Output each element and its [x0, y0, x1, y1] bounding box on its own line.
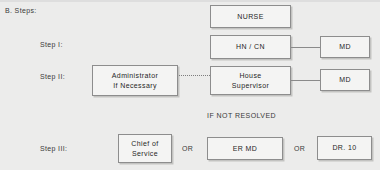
node-house-supervisor-line2: Supervisor — [232, 81, 269, 91]
step-label-3: Step III: — [40, 145, 67, 152]
annotation-or-first: OR — [182, 145, 193, 152]
node-chief-of-service-line2: Service — [131, 149, 158, 159]
node-administrator-line1: Administrator — [112, 71, 158, 81]
node-hn-cn[interactable]: HN / CN — [210, 35, 291, 59]
step-label-1: Step I: — [40, 41, 63, 48]
node-administrator[interactable]: Administrator If Necessary — [92, 65, 178, 96]
annotation-or-second: OR — [294, 145, 305, 152]
node-administrator-line2: If Necessary — [112, 81, 158, 91]
section-heading: B. Steps: — [5, 7, 37, 14]
node-chief-of-service[interactable]: Chief of Service — [118, 134, 172, 163]
annotation-if-not-resolved: IF NOT RESOLVED — [207, 112, 276, 119]
node-house-supervisor[interactable]: House Supervisor — [210, 66, 291, 95]
node-nurse[interactable]: NURSE — [210, 5, 291, 28]
node-md-bottom-label: MD — [339, 75, 351, 85]
node-dr-10-label: DR. 10 — [332, 143, 356, 153]
connector-hn-cn-to-md — [291, 47, 320, 48]
node-er-md-label: ER MD — [233, 144, 258, 154]
connector-administrator-to-house-supervisor — [179, 75, 210, 76]
node-administrator-text: Administrator If Necessary — [112, 71, 158, 90]
node-chief-of-service-text: Chief of Service — [131, 139, 158, 158]
node-house-supervisor-text: House Supervisor — [232, 71, 269, 90]
node-md-top[interactable]: MD — [320, 36, 370, 58]
node-nurse-label: NURSE — [237, 12, 264, 22]
node-md-bottom[interactable]: MD — [320, 69, 370, 91]
step-label-2: Step II: — [40, 73, 65, 80]
node-er-md[interactable]: ER MD — [207, 137, 283, 160]
page-top-rule — [0, 0, 380, 2]
node-dr-10[interactable]: DR. 10 — [317, 136, 372, 160]
node-hn-cn-label: HN / CN — [236, 42, 265, 52]
connector-house-supervisor-to-md — [291, 80, 320, 81]
node-md-top-label: MD — [339, 42, 351, 52]
node-chief-of-service-line1: Chief of — [131, 139, 158, 149]
flowchart-canvas: B. Steps: Step I: Step II: Step III: NUR… — [0, 0, 380, 170]
node-house-supervisor-line1: House — [232, 71, 269, 81]
